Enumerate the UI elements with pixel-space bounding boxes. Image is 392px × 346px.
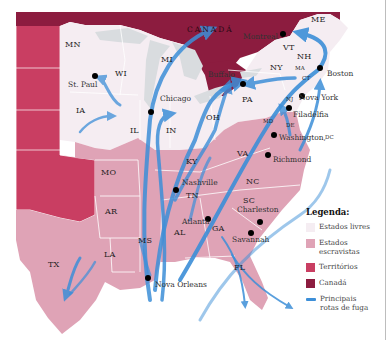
city-label-nashville: Nashville [182,178,218,187]
city-label-st-paul: St. Paul [68,80,97,89]
state-label-al: AL [174,228,186,237]
state-label-md: MD [263,118,273,124]
city-marker-icon [317,65,323,71]
territories-swatch [306,263,315,272]
state-label-sc: SC [243,196,255,205]
city-label-nova-york: Nova York [299,93,338,102]
city-label-charleston: Charleston [237,205,279,214]
state-label-la: LA [104,250,116,259]
state-label-va: VA [237,149,248,158]
city-marker-icon [280,31,286,37]
state-label-mo: MO [101,168,116,177]
city-label-atlanta: Atlanta [182,217,209,226]
city-marker-icon [92,73,98,79]
city-label-nova-orleans: Nova Orleans [155,280,207,289]
city-marker-icon [148,109,154,115]
state-label-ny: NY [270,63,283,72]
city-label-filad-lfia: Filadélfia [293,110,329,119]
state-label-fl: FL [234,263,245,272]
legend: Legenda: Estados livres Estados escravis… [306,207,386,318]
escape-route-line-icon [306,298,316,301]
city-label-chicago: Chicago [160,94,191,103]
city-marker-icon [286,105,292,111]
state-label-ms: MS [138,236,152,245]
legend-item-free-states: Estados livres [306,222,386,232]
city-label-dc: DC [325,134,334,140]
legend-item-territories: Territórios [306,262,386,272]
state-label-me: ME [311,15,325,24]
city-label-savannah: Savannah [232,235,269,244]
state-label-ga: GA [212,224,225,233]
state-label-wi: WI [115,69,127,78]
state-label-tx: TX [48,260,59,269]
state-label-tn: TN [186,191,199,200]
state-label-ia: IA [76,106,85,115]
city-label-richmond: Richmond [273,155,311,164]
city-marker-icon [240,81,246,87]
city-marker-icon [271,132,277,138]
city-marker-icon [173,187,179,193]
free-states-swatch [306,223,315,232]
canada-swatch [306,279,315,288]
state-label-mi: MI [161,55,173,64]
state-label-ky: KY [186,157,197,166]
city-label-boston: Boston [327,69,353,78]
slave-states-swatch [306,239,315,248]
city-marker-icon [145,275,151,281]
state-label-in: IN [166,126,177,135]
city-label-buffalo: Buffalo [208,70,235,79]
city-label-washington-: Washington, [279,133,326,142]
state-label-ct: CT [302,75,310,81]
legend-item-canada: Canadá [306,278,386,288]
city-marker-icon [265,152,271,158]
state-label-il: IL [130,126,139,135]
state-label-mn: MN [65,40,81,49]
state-label-oh: OH [206,113,220,122]
state-label-nj: NJ [286,96,293,102]
state-label-pa: PA [242,95,253,104]
state-label-nc: NC [246,177,260,186]
city-label-montreal: Montreal [243,32,278,41]
legend-title: Legenda: [306,207,386,217]
state-label-nh: NH [297,52,311,61]
state-label-de: DE [286,122,295,128]
state-label-vt: VT [283,43,295,52]
country-label-canada: CANADÁ [187,25,234,34]
state-label-ma: MA [295,65,305,71]
state-label-ar: AR [105,207,117,216]
legend-item-slave-states: Estados escravistas [306,238,386,256]
legend-item-escape-routes: Principais rotas de fuga [306,294,386,312]
city-marker-icon [257,219,263,225]
